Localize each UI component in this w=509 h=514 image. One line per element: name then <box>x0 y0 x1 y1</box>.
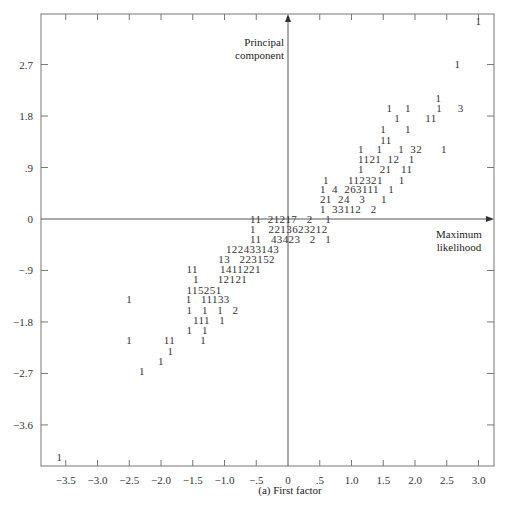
x-tick-label: −2.5 <box>119 474 139 486</box>
x-tick-label: −3.0 <box>88 474 108 486</box>
x-tick-label: 1.5 <box>376 474 390 486</box>
x-tick-label: 2.5 <box>440 474 454 486</box>
x-tick-label: −2.0 <box>151 474 171 486</box>
y-tick-label: .9 <box>25 162 34 174</box>
y-tick-label: −1.8 <box>13 316 33 328</box>
y-tick-label: 1.8 <box>19 110 33 122</box>
data-point-row: 1 <box>476 16 482 27</box>
y-tick-label: 0 <box>28 213 34 225</box>
y-axis-label: Principalcomponent <box>214 36 284 62</box>
x-axis-label: Maximumlikelihood <box>426 228 492 254</box>
data-point-row: 1 <box>168 346 174 357</box>
chart-caption: (a) First factor <box>230 484 350 496</box>
x-tick-label: 3.0 <box>472 474 486 486</box>
data-point-row: 1 <box>455 59 461 70</box>
y-axis-arrow-icon <box>285 14 291 22</box>
x-tick-label: 2.0 <box>408 474 422 486</box>
data-point-row: 1 11 <box>394 113 437 124</box>
y-tick-label: −2.7 <box>13 367 33 379</box>
y-tick-label: 2.7 <box>19 59 33 71</box>
y-tick-label: −.9 <box>19 264 34 276</box>
y-tick-label: −3.6 <box>13 419 33 431</box>
data-point-row: 1 11 1 <box>126 335 206 346</box>
data-point-row: 1 <box>139 366 145 377</box>
data-point-row: 1 <box>158 356 164 367</box>
x-tick-label: −3.5 <box>56 474 76 486</box>
data-point-row: 1 <box>56 452 62 463</box>
x-axis-arrow-icon <box>486 216 494 222</box>
x-tick-label: −1.5 <box>183 474 203 486</box>
